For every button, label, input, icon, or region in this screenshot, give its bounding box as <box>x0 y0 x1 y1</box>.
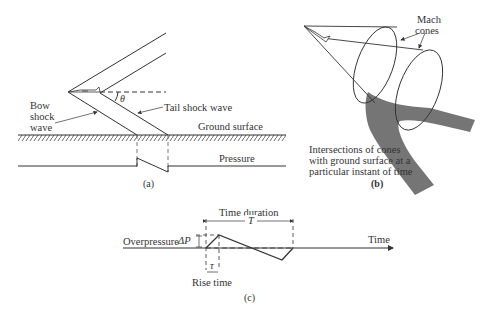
aircraft-icon <box>69 87 100 92</box>
tau-label: τ <box>210 260 214 272</box>
ground-surface <box>18 135 286 141</box>
pressure-label: Pressure <box>219 153 255 165</box>
overpressure-label: Overpressure <box>123 236 179 248</box>
caption-b: (b) <box>371 178 383 189</box>
caption-a: (a) <box>143 178 154 189</box>
theta-label: θ <box>120 93 125 105</box>
rise-time-label: Rise time <box>192 277 232 289</box>
panel-a-shock-waves <box>68 33 168 135</box>
tail-shock-label: Tail shock wave <box>164 102 232 114</box>
T-label: T <box>245 215 257 227</box>
intersection-label-3: particular instant of time <box>309 166 413 178</box>
delta-p-label: ΔP <box>178 235 191 247</box>
mach-cones-label-2: cones <box>415 25 439 37</box>
bow-shock-label-3: wave <box>30 122 52 134</box>
caption-c: (c) <box>244 292 255 303</box>
time-axis-label: Time <box>368 234 390 246</box>
ground-surface-label: Ground surface <box>198 121 263 133</box>
